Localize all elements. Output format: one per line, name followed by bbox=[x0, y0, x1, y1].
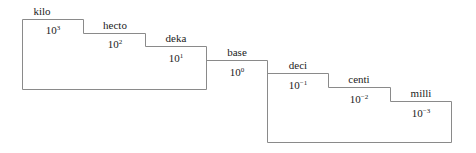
step-power-milli: 10−3 bbox=[391, 107, 451, 119]
step-label-deci: deci bbox=[268, 59, 328, 71]
step-power-deci: 10−1 bbox=[268, 79, 328, 91]
step-power-centi: 10−2 bbox=[329, 93, 389, 105]
step-power-base: 100 bbox=[207, 66, 267, 78]
step-label-kilo: kilo bbox=[22, 5, 62, 17]
step-power-kilo: 103 bbox=[23, 24, 83, 36]
step-power-hecto: 102 bbox=[85, 38, 145, 50]
step-label-centi: centi bbox=[329, 73, 389, 85]
step-power-deka: 101 bbox=[146, 52, 206, 64]
step-label-hecto: hecto bbox=[85, 19, 145, 31]
step-label-base: base bbox=[207, 46, 267, 58]
step-label-deka: deka bbox=[146, 32, 206, 44]
step-label-milli: milli bbox=[391, 87, 451, 99]
